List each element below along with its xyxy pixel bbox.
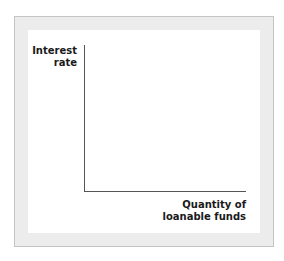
y-axis-label-line-1: Interest xyxy=(22,45,77,57)
y-axis-label: Interest rate xyxy=(22,45,77,69)
x-axis-label-line-2: loanable funds xyxy=(146,211,246,223)
y-axis-line xyxy=(84,45,85,192)
x-axis-label: Quantity of loanable funds xyxy=(146,199,246,223)
x-axis-line xyxy=(84,191,246,192)
y-axis-label-line-2: rate xyxy=(22,57,77,69)
x-axis-label-line-1: Quantity of xyxy=(146,199,246,211)
